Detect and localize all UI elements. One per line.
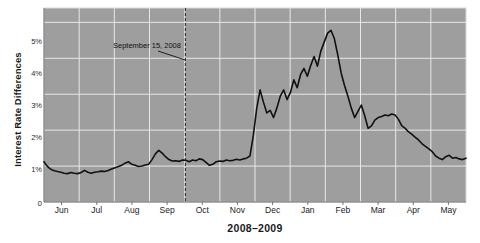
x-tick-label-nov: Nov: [230, 205, 245, 215]
x-tick-label-aug: Aug: [124, 205, 139, 215]
x-tick-label-dec: Dec: [265, 205, 280, 215]
x-tick-label-mar: Mar: [371, 205, 386, 215]
y-tick-label-3: 3%: [2, 101, 42, 110]
interest-rate-differences-chart: Interest Rate Differences 5% 4% 3% 2% 1%…: [0, 0, 480, 243]
y-tick-label-1: 1%: [2, 165, 42, 174]
x-tick-label-feb: Feb: [336, 205, 351, 215]
y-tick-label-0: 0: [2, 199, 42, 208]
x-tick-label-sep: Sep: [160, 205, 175, 215]
y-tick-label-5: 5%: [2, 37, 42, 46]
x-axis-title: 2008–2009: [44, 222, 466, 234]
y-axis-tick-labels: 5% 4% 3% 2% 1% 0: [0, 0, 42, 243]
x-tick-label-apr: Apr: [407, 205, 420, 215]
y-tick-label-4: 4%: [2, 69, 42, 78]
y-tick-label-2: 2%: [2, 133, 42, 142]
annotation-september-15-2008: September 15, 2008: [113, 41, 181, 50]
x-tick-label-jan: Jan: [301, 205, 315, 215]
x-tick-label-jun: Jun: [55, 205, 69, 215]
x-tick-label-jul: Jul: [91, 205, 102, 215]
x-tick-label-oct: Oct: [196, 205, 209, 215]
x-tick-label-may: May: [440, 205, 456, 215]
